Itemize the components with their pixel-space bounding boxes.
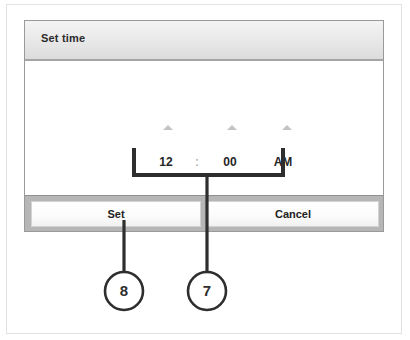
cancel-button[interactable]: Cancel [207, 201, 379, 227]
page-root: Set time 12 : 00 AM Set Cancel [0, 0, 410, 340]
dialog-titlebar: Set time [25, 21, 383, 61]
minute-value[interactable]: 00 [212, 155, 248, 169]
dialog-footer: Set Cancel [25, 195, 383, 231]
dialog-title: Set time [41, 32, 85, 44]
set-time-dialog: Set time 12 : 00 AM Set Cancel [24, 20, 384, 232]
dialog-content: 12 : 00 AM [25, 61, 383, 195]
hour-value[interactable]: 12 [148, 155, 184, 169]
time-separator: : [184, 155, 210, 169]
meridiem-increment-arrow-icon[interactable] [282, 125, 292, 130]
meridiem-value[interactable]: AM [263, 155, 303, 169]
callout-7-number: 7 [187, 282, 227, 299]
minute-increment-arrow-icon[interactable] [227, 125, 237, 130]
hour-increment-arrow-icon[interactable] [163, 125, 173, 130]
set-button[interactable]: Set [31, 201, 201, 227]
callout-8-number: 8 [104, 282, 144, 299]
